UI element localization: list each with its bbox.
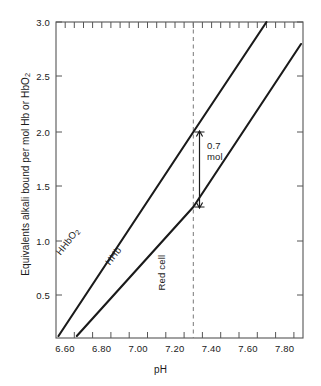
xtick-label-7-20: 7.20 [158, 343, 192, 354]
annotation-units: mol [207, 152, 223, 163]
xtick-label-6-80: 6.80 [85, 343, 119, 354]
y-axis-title-subscript: 2 [23, 73, 32, 77]
reference-line-label-red-cell: Red cell [156, 255, 167, 291]
xtick-label-7-60: 7.60 [231, 343, 265, 354]
axis-frame [56, 22, 303, 338]
curve-hhb [77, 44, 301, 336]
annotation-label-0-7-mol: 0.7 mol [207, 141, 223, 162]
y-axis-title: Equivalents alkali bound per mol Hb or H… [20, 24, 33, 324]
annotation-arrow-0-7-mol [195, 131, 205, 208]
plot-border [56, 22, 303, 338]
x-axis-title: pH [0, 364, 321, 375]
xtick-label-7-40: 7.40 [194, 343, 228, 354]
annotation-value: 0.7 [207, 141, 223, 152]
chart-figure: 3.0 2.5 2.0 1.5 1.0 0.5 6.60 6.80 7.00 7… [0, 0, 321, 386]
y-axis-ticks [56, 22, 303, 295]
xtick-label-6-60: 6.60 [48, 343, 82, 354]
chart-plot-area [0, 0, 321, 386]
xtick-label-7-00: 7.00 [121, 343, 155, 354]
x-axis-ticks [65, 22, 294, 338]
y-axis-title-text: Equivalents alkali bound per mol Hb or H… [20, 77, 31, 276]
xtick-label-7-80: 7.80 [268, 343, 302, 354]
